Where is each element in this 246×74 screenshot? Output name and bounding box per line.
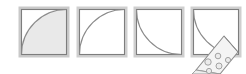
panel-square-with-shaded-quarter-arc bbox=[14, 0, 71, 74]
panel-square-with-pizza-slice bbox=[186, 0, 243, 74]
pepperoni-icon bbox=[206, 68, 211, 73]
pepperoni-icon bbox=[205, 59, 211, 65]
panel-square-with-mirrored-quarter-arc bbox=[129, 0, 186, 74]
figure-root bbox=[0, 0, 246, 74]
pepperoni-icon bbox=[216, 63, 222, 69]
pepperoni-icon bbox=[225, 57, 230, 62]
pepperoni-icon bbox=[215, 53, 221, 59]
panel-square-with-plain-quarter-arc bbox=[72, 0, 129, 74]
